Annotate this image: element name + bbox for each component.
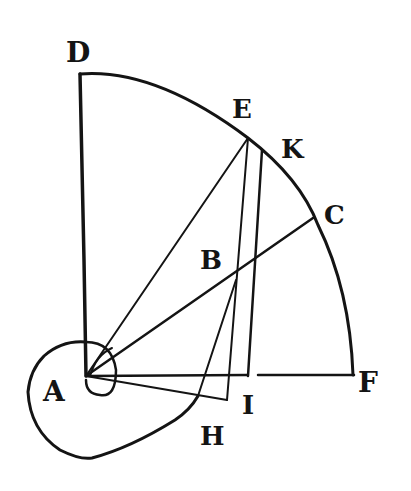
label-K: K	[281, 134, 305, 164]
arc-DEKCF	[80, 74, 353, 375]
label-H: H	[200, 421, 225, 451]
line-EH	[227, 138, 248, 400]
label-I: I	[242, 390, 254, 420]
geometry-figure: D E K C B A F I H	[0, 0, 411, 491]
label-D: D	[66, 36, 90, 69]
line-B-spiral	[198, 280, 236, 396]
label-C: C	[324, 200, 345, 230]
line-AE	[86, 138, 248, 376]
line-AC	[86, 218, 313, 376]
line-AI	[86, 375, 247, 376]
label-F: F	[358, 366, 378, 399]
label-A: A	[42, 375, 66, 408]
line-AH	[86, 376, 227, 400]
label-B: B	[200, 245, 222, 275]
label-E: E	[232, 94, 252, 124]
line-AD	[80, 74, 86, 376]
